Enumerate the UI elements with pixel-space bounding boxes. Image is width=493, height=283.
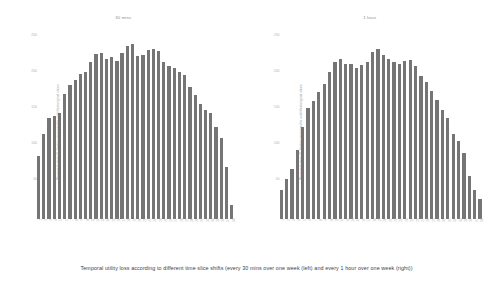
bar xyxy=(157,51,160,219)
bar xyxy=(301,127,304,219)
bar xyxy=(225,167,228,219)
bar xyxy=(333,62,336,219)
bar xyxy=(382,55,385,219)
x-tick-label: 38 xyxy=(232,218,236,221)
bar xyxy=(478,199,481,219)
bar xyxy=(141,55,144,219)
chart-panel-left: 30 mins Perceived mean UL fraction compa… xyxy=(0,6,247,257)
bar xyxy=(220,138,223,219)
bar xyxy=(136,56,139,219)
bar xyxy=(74,80,77,219)
bar xyxy=(162,62,165,219)
bar xyxy=(42,134,45,219)
bar xyxy=(435,100,438,219)
bar xyxy=(126,46,129,219)
bar xyxy=(462,153,465,219)
bar xyxy=(473,190,476,219)
bar xyxy=(398,64,401,219)
bar xyxy=(188,87,191,219)
bar xyxy=(120,53,123,219)
bar xyxy=(214,127,217,219)
bar xyxy=(457,141,460,219)
bar xyxy=(47,118,50,219)
bar xyxy=(147,50,150,219)
chart-title-left: 30 mins xyxy=(0,15,247,20)
bar xyxy=(94,54,97,219)
bar xyxy=(441,110,444,219)
bar xyxy=(79,74,82,219)
bar xyxy=(349,64,352,219)
bar xyxy=(167,66,170,219)
chart-panels: 30 mins Perceived mean UL fraction compa… xyxy=(0,0,493,257)
bar xyxy=(392,62,395,219)
plot-area-right xyxy=(279,32,484,219)
bar xyxy=(296,150,299,219)
chart-panel-right: 1 hour Perceived mean UL fraction compar… xyxy=(247,6,493,257)
plot-area-left xyxy=(36,32,235,219)
bar xyxy=(371,52,374,219)
bar xyxy=(105,59,108,219)
bar xyxy=(209,113,212,219)
bar-series-left xyxy=(36,32,235,219)
bar xyxy=(414,66,417,219)
bar xyxy=(339,59,342,219)
figure-caption: Temporal utility loss according to diffe… xyxy=(0,257,493,283)
bar xyxy=(183,75,186,219)
bar xyxy=(344,64,347,219)
bar xyxy=(68,85,71,219)
bar xyxy=(280,190,283,219)
bar xyxy=(430,91,433,219)
x-tick-item: 38 xyxy=(229,220,234,231)
bar xyxy=(409,60,412,219)
bar xyxy=(376,49,379,219)
bar xyxy=(194,95,197,219)
bar xyxy=(419,76,422,219)
bar xyxy=(53,116,56,219)
bar xyxy=(306,108,309,219)
bar xyxy=(37,156,40,219)
bar xyxy=(178,72,181,219)
bar xyxy=(403,61,406,219)
bar xyxy=(131,44,134,219)
chart-title-right: 1 hour xyxy=(247,15,493,20)
bar xyxy=(63,94,66,219)
figure-container: 30 mins Perceived mean UL fraction compa… xyxy=(0,0,493,283)
bar xyxy=(366,62,369,220)
x-axis-ticks-right: 1234567891011121314151617181920212223242… xyxy=(279,220,484,231)
bar xyxy=(115,61,118,219)
bar xyxy=(110,57,113,219)
bar xyxy=(84,72,87,219)
x-axis-ticks-left: 1234567891011121314151617181920212223242… xyxy=(36,220,235,231)
bar xyxy=(452,134,455,219)
bar xyxy=(328,72,331,219)
bar xyxy=(100,53,103,219)
bar xyxy=(285,179,288,219)
bar-item xyxy=(477,32,482,219)
bar xyxy=(89,62,92,219)
bar xyxy=(387,59,390,219)
x-tick-label: 38 xyxy=(480,218,484,221)
bar xyxy=(312,101,315,219)
bar xyxy=(446,118,449,219)
x-tick-item: 38 xyxy=(477,220,482,231)
bar xyxy=(425,82,428,219)
bar xyxy=(323,84,326,219)
bar xyxy=(317,92,320,219)
bar xyxy=(58,113,61,219)
bar xyxy=(173,68,176,219)
bar xyxy=(230,205,233,219)
bar xyxy=(152,49,155,219)
bar xyxy=(468,176,471,219)
bar-series-right xyxy=(279,32,484,219)
bar-item xyxy=(229,32,234,219)
bar xyxy=(360,65,363,219)
bar xyxy=(204,110,207,219)
bar xyxy=(290,169,293,219)
bar xyxy=(355,68,358,219)
bar xyxy=(199,104,202,219)
